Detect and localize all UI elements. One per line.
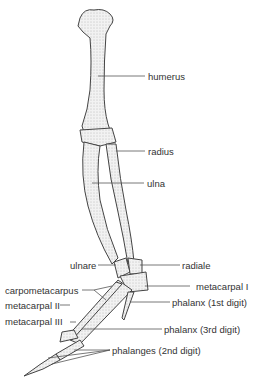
label-phalanx-1st: phalanx (1st digit)	[172, 297, 247, 308]
label-metacarpal-3: metacarpal III	[5, 316, 63, 327]
label-radius: radius	[148, 146, 174, 157]
carpometacarpus-bone	[70, 280, 132, 344]
label-humerus: humerus	[148, 71, 185, 82]
leader-lines	[48, 76, 190, 364]
label-ulnare: ulnare	[70, 260, 96, 271]
label-ulna: ulna	[147, 178, 165, 189]
label-metacarpal-1: metacarpal I	[196, 281, 248, 292]
label-phalanx-3rd: phalanx (3rd digit)	[164, 324, 240, 335]
label-phalanges-2nd: phalanges (2nd digit)	[112, 345, 201, 356]
wing-skeleton-diagram: humerus radius ulna ulnare radiale carpo…	[0, 0, 256, 386]
label-carpometacarpus: carpometacarpus	[5, 285, 78, 296]
label-radiale: radiale	[182, 260, 211, 271]
label-metacarpal-2: metacarpal II	[5, 300, 60, 311]
humerus-bone	[78, 10, 113, 134]
radiale-bone	[128, 258, 142, 274]
